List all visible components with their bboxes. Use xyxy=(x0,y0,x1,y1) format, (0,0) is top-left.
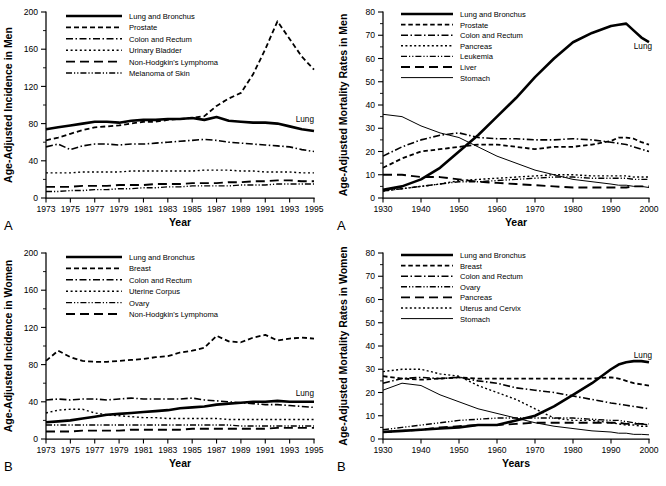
legend-label: Urinary Bladder xyxy=(129,46,182,55)
x-tick-label: 1990 xyxy=(601,204,620,214)
y-tick-label: 60 xyxy=(365,54,375,64)
legend-label: Uterus and Cervix xyxy=(460,304,521,313)
legend-label: Lung and Bronchus xyxy=(129,253,195,262)
legend-label: Colon and Rectum xyxy=(129,276,192,285)
y-tick-label: 40 xyxy=(28,397,38,407)
series-annotation-lung: Lung xyxy=(634,351,653,360)
x-tick-label: 1950 xyxy=(449,445,468,455)
cancer-rates-figure: 0408012016020019731975197719791981198319… xyxy=(0,0,666,486)
x-tick-label: 2000 xyxy=(639,445,658,455)
x-tick-label: 1930 xyxy=(373,445,392,455)
y-tick-label: 80 xyxy=(28,360,38,370)
legend-label: Colon and Rectum xyxy=(129,35,192,44)
series-annotation-lung: Lung xyxy=(296,389,315,398)
legend-label: Pancreas xyxy=(460,42,492,51)
legend: Lung and BronchusBreastColon and RectumU… xyxy=(66,253,219,319)
y-tick-label: 0 xyxy=(370,193,375,203)
x-tick-label: 1981 xyxy=(134,445,153,455)
y-axis-title: Age-Adjusted Mortality Rates in Women xyxy=(337,246,349,445)
x-axis-title: Year xyxy=(505,216,527,228)
series-line xyxy=(46,139,314,151)
y-tick-label: 160 xyxy=(24,44,39,54)
x-tick-label: 1977 xyxy=(85,445,104,455)
x-tick-label: 1970 xyxy=(525,445,544,455)
x-tick-label: 1981 xyxy=(134,204,153,214)
y-axis-ticks: 01020304050607080 xyxy=(365,248,383,444)
x-axis-title: Year xyxy=(169,216,191,228)
legend-label: Lung and Bronchus xyxy=(129,12,195,21)
y-tick-label: 60 xyxy=(365,295,375,305)
legend: Lung and BronchusBreastColon and RectumO… xyxy=(401,251,526,324)
y-tick-label: 70 xyxy=(365,271,375,281)
legend-label: Lung and Bronchus xyxy=(460,251,526,260)
x-axis-title: Year xyxy=(169,457,191,469)
legend-label: Prostate xyxy=(129,23,157,32)
legend-label: Breast xyxy=(460,262,483,271)
x-tick-label: 1940 xyxy=(411,445,430,455)
legend-label: Non-Hodgkin's Lymphoma xyxy=(129,310,219,319)
panel-letter: A xyxy=(337,218,346,233)
x-tick-label: 1940 xyxy=(411,204,430,214)
x-axis-title: Years xyxy=(502,457,530,469)
y-tick-label: 50 xyxy=(365,318,375,328)
x-tick-label: 1987 xyxy=(207,204,226,214)
legend-label: Pancreas xyxy=(460,293,492,302)
legend-label: Stomach xyxy=(460,74,490,83)
x-tick-label: 1990 xyxy=(601,445,620,455)
series-line xyxy=(46,428,314,432)
x-tick-label: 1993 xyxy=(280,445,299,455)
y-tick-label: 10 xyxy=(365,170,375,180)
x-tick-label: 1975 xyxy=(61,445,80,455)
y-axis-ticks: 01020304050607080 xyxy=(365,7,383,203)
legend-label: Stomach xyxy=(460,315,490,324)
series-group xyxy=(46,335,314,432)
x-axis-ticks: 19301940195019601970198019902000 xyxy=(373,198,658,214)
y-tick-label: 80 xyxy=(365,248,375,258)
series-line xyxy=(383,24,649,190)
series-line xyxy=(46,398,314,407)
legend-label: Colon and Rectum xyxy=(460,272,523,281)
y-tick-label: 40 xyxy=(365,100,375,110)
series-line xyxy=(46,180,314,187)
panel-letter: B xyxy=(337,459,346,474)
panel-a-incidence-men: 0408012016020019731975197719791981198319… xyxy=(0,0,333,243)
y-tick-label: 0 xyxy=(33,193,38,203)
y-tick-label: 120 xyxy=(24,82,39,92)
x-tick-label: 1979 xyxy=(110,445,129,455)
x-tick-label: 1991 xyxy=(256,445,275,455)
y-tick-label: 10 xyxy=(365,411,375,421)
x-tick-label: 1985 xyxy=(183,445,202,455)
series-line xyxy=(383,361,649,432)
x-tick-label: 1970 xyxy=(525,204,544,214)
x-tick-label: 1960 xyxy=(487,445,506,455)
x-tick-label: 1975 xyxy=(61,204,80,214)
legend-label: Melanoma of Skin xyxy=(129,69,190,78)
legend-label: Colon and Rectum xyxy=(460,31,523,40)
x-tick-label: 1993 xyxy=(280,204,299,214)
y-tick-label: 200 xyxy=(24,7,39,17)
legend-label: Breast xyxy=(129,264,152,273)
x-tick-label: 1973 xyxy=(36,204,55,214)
series-line xyxy=(46,184,314,191)
series-line xyxy=(46,170,314,173)
y-tick-label: 30 xyxy=(365,123,375,133)
y-tick-label: 40 xyxy=(365,341,375,351)
x-tick-label: 1977 xyxy=(85,204,104,214)
panel-b-incidence-women: 0408012016020019731975197719791981198319… xyxy=(0,243,333,486)
x-tick-label: 1930 xyxy=(373,204,392,214)
legend-label: Lung and Bronchus xyxy=(460,10,526,19)
y-tick-label: 80 xyxy=(365,7,375,17)
y-tick-label: 20 xyxy=(365,147,375,157)
y-tick-label: 160 xyxy=(24,285,39,295)
legend: Lung and BronchusProstateColon and Rectu… xyxy=(66,12,219,78)
x-tick-label: 1995 xyxy=(304,204,323,214)
x-tick-label: 1991 xyxy=(256,204,275,214)
y-tick-label: 120 xyxy=(24,323,39,333)
series-annotation-lung: Lung xyxy=(296,115,315,124)
y-tick-label: 80 xyxy=(28,119,38,129)
series-line xyxy=(383,133,649,156)
x-tick-label: 1960 xyxy=(487,204,506,214)
x-tick-label: 1980 xyxy=(563,445,582,455)
y-tick-label: 0 xyxy=(370,434,375,444)
y-axis-title: Age-Adjusted Incidence in Women xyxy=(2,260,14,433)
